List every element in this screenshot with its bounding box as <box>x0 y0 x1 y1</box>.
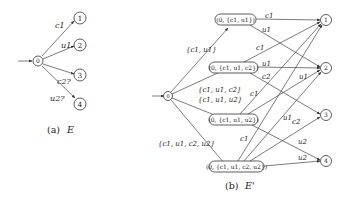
final-state-3-label: 3 <box>324 111 328 118</box>
caption-a-prefix: (a) <box>47 124 60 135</box>
caption-a-name: E <box>66 124 74 135</box>
entry-label-D: {c1, u1, c2, u2} <box>158 140 215 148</box>
entry-label-B: {c1, u1, c2} <box>198 86 242 94</box>
edge-label-B-2: u1 <box>262 60 271 68</box>
state-1-label: 1 <box>78 15 82 23</box>
entry-label-A: {c1, u1} <box>186 46 217 54</box>
edge-label-c1: c1 <box>55 21 65 30</box>
edge-0-3 <box>43 64 74 74</box>
state-2-label: 2 <box>78 42 82 50</box>
edge-label-D-1: c1 <box>240 135 248 143</box>
macro-state-B-label: (0, {c1, u1, c2}) <box>209 64 259 71</box>
macro-state-C-label: (0, {c1, u1, u2}) <box>208 116 258 123</box>
edge-label-C-1: c1 <box>250 90 258 98</box>
automaton-e-prime: 0 {c1, u1} {c1, u1, c2} {c1, u1, u2} {c1… <box>152 12 332 191</box>
edge-label-c2: c2? <box>57 77 72 86</box>
state-0-label: 0 <box>36 57 40 64</box>
final-state-4-label: 4 <box>324 157 328 164</box>
entry-edge-A <box>171 28 228 92</box>
macro-state-A-label: (0, {c1, u1}) <box>216 16 255 23</box>
edge-label-u2: u2? <box>50 94 65 103</box>
edge-label-B-3: c2 <box>262 73 271 81</box>
edge-label-C-4: u2 <box>298 138 308 146</box>
edge-label-C-2: u1 <box>283 114 292 122</box>
entry-label-C: {c1, u1, u2} <box>198 96 242 104</box>
automaton-e: 0 1 2 3 4 c1 u1 c2? u2? (a) E <box>18 12 86 135</box>
diagram-canvas: 0 1 2 3 4 c1 u1 c2? u2? (a) E 0 {c1, u1}… <box>0 0 352 198</box>
edge-label-A-2: u1 <box>262 26 271 34</box>
caption-b-prefix: (b) <box>225 180 239 191</box>
final-state-1-label: 1 <box>324 16 328 23</box>
entry-edge-D <box>171 100 230 170</box>
state-3-label: 3 <box>78 72 82 80</box>
edge-B-3 <box>250 73 320 114</box>
caption-b-name: E' <box>244 180 255 191</box>
final-state-2-label: 2 <box>324 64 328 71</box>
edge-label-u1: u1 <box>61 41 71 50</box>
edge-label-D-2: u1 <box>299 73 308 81</box>
edge-D-4 <box>264 161 320 166</box>
edge-label-D-3: c2 <box>292 118 301 126</box>
edge-label-A-1: c1 <box>265 12 273 20</box>
state-4-label: 4 <box>78 101 83 109</box>
edge-label-B-1: c1 <box>256 44 264 52</box>
edge-C-4 <box>252 125 320 160</box>
edge-label-D-4: u2 <box>298 154 308 162</box>
macro-state-D-label: (0, {c1, u1, c2, u2}) <box>206 163 267 170</box>
state-0-label: 0 <box>166 93 169 99</box>
